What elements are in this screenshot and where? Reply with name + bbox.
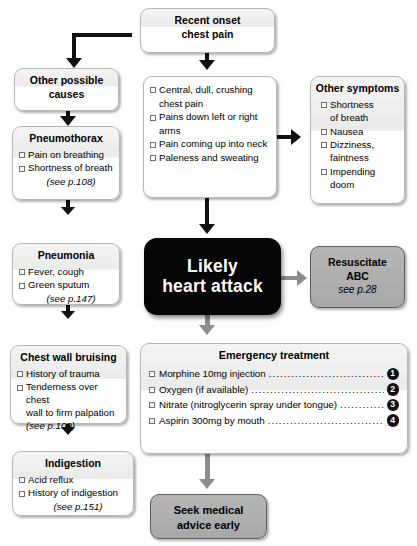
- heart-attack-line2: heart attack: [144, 276, 281, 296]
- list-item: Dizziness,: [321, 139, 399, 151]
- other-causes-title-line2: causes: [15, 87, 118, 101]
- list-item-continuation: doom: [321, 179, 399, 191]
- pneumothorax-symptom-list: Pain on breathing Shortness of breath (s…: [13, 145, 119, 193]
- node-likely-heart-attack[interactable]: Likely heart attack: [144, 238, 281, 315]
- node-chest-wall-bruising[interactable]: Chest wall bruising History of trauma Te…: [10, 345, 127, 424]
- resuscitate-line2: ABC: [311, 269, 404, 283]
- list-item: History of trauma: [17, 368, 121, 380]
- list-item-continuation: faintness: [321, 152, 399, 164]
- seek-advice-line2: advice early: [151, 518, 266, 533]
- other-causes-title-line1: Other possible: [15, 69, 118, 87]
- treatment-label: Aspirin 300mg by mouth: [159, 413, 265, 429]
- table-row: Morphine 10mg injection ................…: [149, 366, 399, 382]
- list-item: Shortness: [321, 99, 399, 111]
- start-title-line2: chest pain: [141, 27, 274, 41]
- node-pneumothorax[interactable]: Pneumothorax Pain on breathing Shortness…: [12, 126, 120, 200]
- node-other-symptoms[interactable]: Other symptoms Shortness of breath Nause…: [310, 76, 405, 204]
- treatment-label: Oxygen (if available): [159, 382, 248, 398]
- node-emergency-treatment[interactable]: Emergency treatment Morphine 10mg inject…: [140, 343, 408, 454]
- arrow-to-heart-attack: [199, 224, 215, 234]
- arrow-to-resuscitate: [297, 270, 307, 286]
- other-symptoms-title: Other symptoms: [311, 77, 404, 95]
- flowchart-canvas: Recent onset chest pain Other possible c…: [0, 0, 417, 546]
- pneumonia-symptom-list: Fever, cough Green sputum (see p.147): [13, 262, 119, 310]
- leader-dots: ........................................…: [251, 382, 383, 398]
- node-cardinal-symptoms[interactable]: Central, dull, crushing chest pain Pains…: [143, 76, 277, 198]
- table-row: Oxygen (if available) ..................…: [149, 382, 399, 398]
- list-item-continuation: chest pain: [150, 98, 271, 111]
- indigestion-title: Indigestion: [13, 452, 133, 470]
- leader-dots: ........................................…: [269, 366, 384, 382]
- list-item: Pains down left or right: [150, 111, 271, 124]
- emergency-treatment-title: Emergency treatment: [141, 344, 407, 361]
- list-item: Pain coming up into neck: [150, 138, 271, 151]
- node-indigestion[interactable]: Indigestion Acid reflux History of indig…: [12, 451, 134, 516]
- list-item: Pain on breathing: [19, 149, 114, 161]
- list-item: Central, dull, crushing: [150, 84, 271, 97]
- node-other-possible-causes[interactable]: Other possible causes: [14, 68, 119, 111]
- status-badge: 1: [387, 368, 400, 381]
- emergency-treatment-list: Morphine 10mg injection ................…: [141, 361, 407, 431]
- status-badge: 4: [387, 414, 400, 427]
- pneumonia-title: Pneumonia: [13, 244, 119, 262]
- pneumothorax-title: Pneumothorax: [13, 127, 119, 145]
- status-badge: 3: [387, 399, 400, 412]
- status-badge: 2: [387, 383, 400, 396]
- leader-dots: ........................................…: [268, 413, 384, 429]
- chest-wall-title: Chest wall bruising: [11, 346, 126, 364]
- seek-advice-line1: Seek medical: [151, 495, 266, 518]
- node-resuscitate-abc[interactable]: Resuscitate ABC see p.28: [310, 246, 405, 308]
- arrow-to-chest-wall: [61, 311, 75, 319]
- arrow-to-pneumonia: [61, 207, 75, 215]
- list-item: Fever, cough: [19, 266, 114, 278]
- list-item: Impending: [321, 166, 399, 178]
- list-item: History of indigestion: [19, 487, 128, 499]
- other-symptoms-list: Shortness of breath Nausea Dizziness, fa…: [311, 95, 404, 197]
- arrow-to-seek-advice: [199, 479, 215, 489]
- chest-wall-symptom-list: History of trauma Tenderness over chest …: [11, 364, 126, 438]
- arrow-to-other-symptoms: [291, 129, 301, 145]
- heart-attack-line1: Likely: [144, 256, 281, 276]
- arrow-to-other-causes: [66, 58, 82, 68]
- indigestion-page-ref: (see p.151): [19, 501, 128, 513]
- table-row: Nitrate (nitroglycerin spray under tongu…: [149, 397, 399, 413]
- list-item-continuation: arms: [150, 125, 271, 138]
- cardinal-symptom-list: Central, dull, crushing chest pain Pains…: [144, 77, 276, 170]
- connector-start-to-other-causes-horizontal: [72, 33, 132, 37]
- list-item: Paleness and sweating: [150, 152, 271, 165]
- node-recent-onset-chest-pain[interactable]: Recent onset chest pain: [140, 8, 275, 53]
- pneumonia-page-ref: (see p.147): [19, 293, 114, 305]
- list-item: Shortness of breath: [19, 162, 114, 174]
- arrow-to-emergency-treatment: [199, 325, 215, 335]
- leader-dots: ........................................…: [340, 397, 383, 413]
- treatment-label: Nitrate (nitroglycerin spray under tongu…: [159, 397, 337, 413]
- treatment-label: Morphine 10mg injection: [159, 366, 266, 382]
- arrow-to-pneumothorax: [60, 116, 76, 126]
- list-item-continuation: wall to firm palpation: [17, 407, 121, 419]
- resuscitate-line1: Resuscitate: [311, 247, 404, 269]
- list-item: Nausea: [321, 126, 399, 138]
- node-seek-medical-advice[interactable]: Seek medical advice early: [150, 494, 267, 539]
- chest-wall-page-ref: (see p.109): [17, 420, 121, 432]
- list-item: Green sputum: [19, 279, 114, 291]
- list-item: Acid reflux: [19, 474, 128, 486]
- start-title-line1: Recent onset: [141, 9, 274, 27]
- table-row: Aspirin 300mg by mouth .................…: [149, 413, 399, 429]
- resuscitate-page-ref: see p.28: [311, 283, 404, 295]
- list-item-continuation: of breath: [321, 112, 399, 124]
- indigestion-symptom-list: Acid reflux History of indigestion (see …: [13, 470, 133, 518]
- node-pneumonia[interactable]: Pneumonia Fever, cough Green sputum (see…: [12, 243, 120, 305]
- list-item: Tenderness over chest: [17, 381, 121, 406]
- pneumothorax-page-ref: (see p.108): [19, 176, 114, 188]
- arrow-to-symptoms: [199, 60, 215, 70]
